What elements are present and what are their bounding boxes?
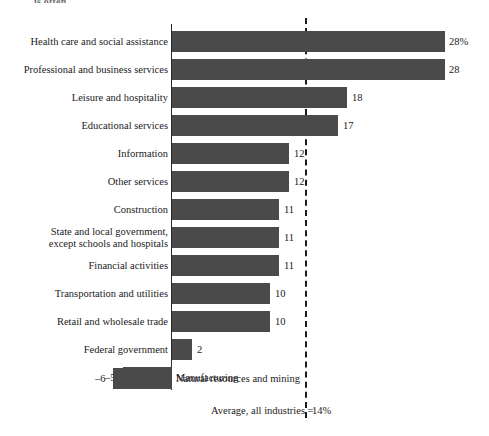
bar-value-label: 12 [294,176,305,187]
bar-value-label: 17 [343,120,354,131]
bar-value-label: 11 [284,260,294,271]
bar-value-label: 10 [275,288,286,299]
category-label: Federal government [84,344,168,356]
bar-value-label: 28 [449,64,460,75]
bar [172,255,279,276]
category-label: Other services [108,176,168,188]
average-caption-left: Average, all industries = [211,405,314,416]
category-label: Information [118,148,168,160]
bar [172,199,279,220]
bar [172,59,445,80]
category-label: Retail and wholesale trade [57,316,168,328]
category-label-line1: State and local government, [0,226,168,238]
category-label: State and local government, except schoo… [0,226,168,249]
cropped-headline-fragment: is often [34,0,66,3]
bar [172,227,279,248]
bar-value-label: 12 [294,148,305,159]
category-label: Educational services [81,120,168,132]
category-label-line2: except schools and hospitals [0,238,168,250]
category-label: Construction [114,204,168,216]
category-label: Transportation and utilities [55,288,168,300]
bar [172,31,445,52]
bar-value-label: 18 [352,92,363,103]
bar [172,171,289,192]
bar-chart: is often Average, all industries = 14% H… [0,0,489,436]
bar [172,311,270,332]
bar [113,368,172,389]
category-label: Leisure and hospitality [72,92,168,104]
bar [172,283,270,304]
category-label: Natural resources and mining [176,373,300,384]
bar-value-label: 28% [449,36,468,47]
bar-value-label: 2 [197,344,202,355]
category-label: Professional and business services [24,64,168,76]
category-label: Health care and social assistance [30,36,168,48]
category-label: Financial activities [88,260,168,272]
bar [172,115,338,136]
bar-value-label: 11 [284,204,294,215]
bar [172,87,347,108]
bar [172,339,192,360]
bar-value-label: 10 [275,316,286,327]
bar-value-label: 11 [284,232,294,243]
bar [172,143,289,164]
bar-value-label: –6 [95,373,106,384]
average-caption-value: 14% [312,405,331,416]
